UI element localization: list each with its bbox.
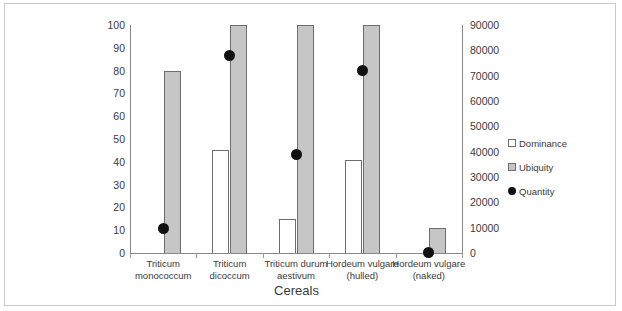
legend-item-dominance[interactable]: Dominance — [508, 131, 600, 155]
left-axis-tick: 20 — [85, 202, 125, 212]
x-axis-line — [130, 253, 463, 254]
bar-dominance — [212, 150, 229, 253]
legend-label: Quantity — [519, 186, 554, 197]
bar-ubiquity — [297, 25, 314, 253]
filled-square-icon — [508, 163, 516, 171]
left-axis-tick: 40 — [85, 157, 125, 167]
left-axis-tick: 100 — [85, 20, 125, 30]
x-axis-category-label-line: (naked) — [390, 270, 468, 282]
left-axis-tick: 30 — [85, 180, 125, 190]
quantity-marker — [291, 149, 302, 160]
left-axis-tick: 60 — [85, 111, 125, 121]
right-axis-tick: 70000 — [470, 71, 522, 81]
right-axis-tick: 0 — [470, 248, 522, 258]
bar-ubiquity — [363, 25, 380, 253]
legend-item-ubiquity[interactable]: Ubiquity — [508, 155, 600, 179]
legend-label: Ubiquity — [519, 162, 553, 173]
filled-circle-icon — [508, 187, 516, 195]
left-axis-tick: 50 — [85, 134, 125, 144]
left-axis-tick: 10 — [85, 225, 125, 235]
right-axis-line — [462, 25, 463, 254]
right-axis-tick: 10000 — [470, 223, 522, 233]
chart-legend: Dominance Ubiquity Quantity — [508, 131, 600, 203]
legend-item-quantity[interactable]: Quantity — [508, 179, 600, 203]
x-axis-category-label: Hordeum vulgare(naked) — [390, 258, 468, 281]
left-axis-tick: 80 — [85, 66, 125, 76]
left-axis-tick: 90 — [85, 43, 125, 53]
right-axis-tick: 80000 — [470, 45, 522, 55]
left-axis-labels: 0 10 20 30 40 50 60 70 80 90 100 — [83, 25, 125, 253]
quantity-marker — [423, 247, 434, 258]
chart-container: 0 10 20 30 40 50 60 70 80 90 100 0 10000… — [0, 0, 622, 311]
quantity-marker — [224, 50, 235, 61]
left-axis-tick: 70 — [85, 88, 125, 98]
bar-dominance — [279, 219, 296, 253]
open-square-icon — [508, 139, 516, 147]
plot-area — [130, 25, 462, 253]
quantity-marker — [357, 65, 368, 76]
bar-dominance — [345, 160, 362, 253]
right-axis-tick: 60000 — [470, 96, 522, 106]
left-axis-tick: 0 — [85, 248, 125, 258]
x-axis-category-label-line: Hordeum vulgare — [390, 258, 468, 270]
right-axis-tick: 90000 — [470, 20, 522, 30]
legend-label: Dominance — [519, 138, 567, 149]
x-axis-title: Cereals — [130, 283, 463, 298]
right-axis-tick: 50000 — [470, 121, 522, 131]
